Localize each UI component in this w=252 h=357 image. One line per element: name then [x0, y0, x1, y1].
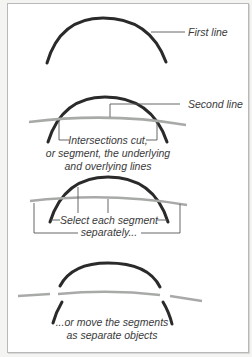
select-label-line1: Select each segment: [60, 214, 159, 226]
first-line-arc: [47, 18, 166, 63]
intersections-label-line2: or segment, the underlying: [46, 147, 170, 159]
moved-gray-segment-right: [170, 296, 202, 301]
second-line-label: Second line: [188, 98, 243, 110]
panel3-second-line: [30, 197, 187, 205]
intersections-label-line1: Intersections cut,: [68, 134, 147, 146]
diagram-canvas: First line Second line Intersections cut…: [0, 0, 252, 357]
intersections-label-line3: and overlying lines: [65, 160, 153, 172]
moved-arc-top-segment: [60, 263, 160, 287]
second-line: [29, 118, 186, 125]
moved-gray-segment-middle: [58, 292, 160, 295]
first-line-label: First line: [188, 26, 228, 38]
select-label-line2: separately...: [81, 226, 137, 238]
move-label-line2: as separate objects: [66, 329, 158, 341]
moved-gray-segment-left: [18, 294, 50, 296]
move-label-line1: ...or move the segments: [56, 316, 169, 328]
